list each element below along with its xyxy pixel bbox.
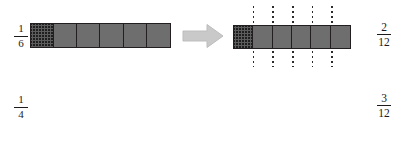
fraction-label-two-twelfths: 2 12 bbox=[374, 21, 394, 48]
arrow-right-icon bbox=[182, 23, 224, 49]
bar-segment bbox=[292, 26, 311, 48]
bar-segment bbox=[124, 24, 147, 47]
fraction-divider bbox=[377, 34, 391, 35]
fraction-divider bbox=[377, 105, 391, 106]
source-bar-sixths bbox=[30, 23, 171, 48]
bar-segment bbox=[331, 26, 350, 48]
result-bar-twelfths-from-sixths bbox=[233, 25, 351, 49]
bar-segment bbox=[100, 24, 123, 47]
fraction-denominator: 6 bbox=[11, 38, 31, 50]
equivalence-row-fourths: 1 4 3 12 bbox=[0, 71, 403, 142]
bar-segment bbox=[273, 26, 292, 48]
bar-segment-shaded bbox=[31, 24, 54, 47]
bar-segment bbox=[54, 24, 77, 47]
fraction-numerator: 1 bbox=[11, 94, 31, 106]
fraction-denominator: 12 bbox=[374, 107, 394, 119]
bar-segment bbox=[77, 24, 100, 47]
bar-segment bbox=[147, 24, 170, 47]
bar-segment-shaded bbox=[234, 26, 253, 48]
fraction-label-three-twelfths: 3 12 bbox=[374, 92, 394, 119]
fraction-denominator: 4 bbox=[11, 109, 31, 121]
bar-segment bbox=[311, 26, 330, 48]
fraction-numerator: 1 bbox=[11, 23, 31, 35]
bar-segment bbox=[253, 26, 272, 48]
fraction-label-one-sixth: 1 6 bbox=[11, 23, 31, 49]
fraction-numerator: 2 bbox=[374, 21, 394, 33]
equivalence-row-sixths: 1 6 2 12 bbox=[0, 0, 403, 71]
fraction-numerator: 3 bbox=[374, 92, 394, 104]
fraction-label-one-fourth: 1 4 bbox=[11, 94, 31, 120]
fraction-denominator: 12 bbox=[374, 36, 394, 48]
